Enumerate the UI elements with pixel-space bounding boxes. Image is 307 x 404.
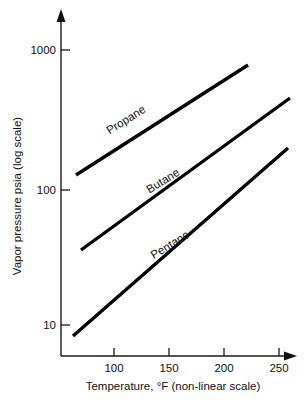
chart-canvas: 1000 100 10 100 150 200 250 Propane Buta… bbox=[0, 0, 307, 404]
x-axis-title: Temperature, °F (non-linear scale) bbox=[86, 380, 261, 392]
x-tick-label-150: 150 bbox=[159, 362, 178, 374]
series-label-pentane: Pentane bbox=[149, 228, 192, 261]
y-axis-title: Vapor pressure psia (log scale) bbox=[11, 117, 23, 275]
vapor-pressure-chart: 1000 100 10 100 150 200 250 Propane Buta… bbox=[0, 0, 307, 404]
y-axis-arrow-icon bbox=[57, 9, 66, 22]
y-tick-label-1000: 1000 bbox=[30, 44, 56, 56]
x-tick-label-250: 250 bbox=[269, 362, 288, 374]
series-line-propane bbox=[76, 65, 248, 175]
y-tick-label-10: 10 bbox=[43, 319, 56, 331]
x-axis-arrow-icon bbox=[284, 352, 297, 361]
series-label-propane: Propane bbox=[104, 103, 147, 136]
y-tick-label-100: 100 bbox=[37, 184, 56, 196]
x-tick-label-200: 200 bbox=[214, 362, 233, 374]
x-tick-label-100: 100 bbox=[104, 362, 123, 374]
